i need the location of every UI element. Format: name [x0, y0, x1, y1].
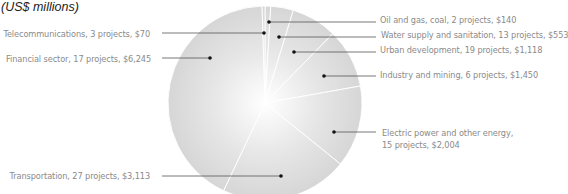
- leader-dot: [322, 74, 326, 78]
- leader-dot: [292, 50, 296, 54]
- leader-dot: [277, 35, 281, 39]
- leader-dot: [262, 31, 266, 35]
- leader-dot: [332, 130, 336, 134]
- label-urban: Urban development, 19 projects, $1,118: [380, 45, 542, 55]
- label-telecom: Telecommunications, 3 projects, $70: [3, 29, 150, 39]
- label-electric-line1: Electric power and other energy,: [382, 128, 513, 138]
- leader-dot: [267, 20, 271, 24]
- leader-dot: [208, 56, 212, 60]
- label-electric-line2: 15 projects, $2,004: [382, 140, 460, 150]
- label-industry: Industry and mining, 6 projects, $1,450: [380, 70, 538, 80]
- label-oil-gas: Oil and gas, coal, 2 projects, $140: [380, 15, 516, 25]
- label-water: Water supply and sanitation, 13 projects…: [381, 30, 568, 40]
- leader-dot: [279, 174, 283, 178]
- label-financial: Financial sector, 17 projects, $6,245: [6, 54, 151, 64]
- label-transportation: Transportation, 27 projects, $3,113: [10, 171, 150, 181]
